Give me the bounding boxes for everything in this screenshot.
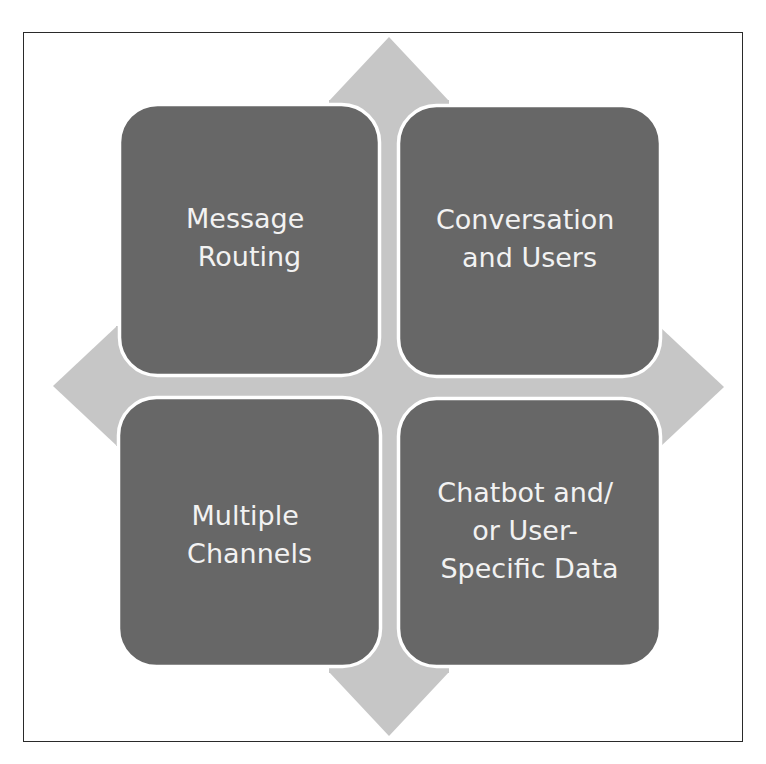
label-line: Specific Data bbox=[440, 553, 618, 584]
arrow-head-up bbox=[329, 37, 449, 101]
label-line: or User- bbox=[472, 515, 578, 546]
label-line: Message bbox=[186, 203, 304, 234]
label-line: Multiple bbox=[192, 500, 299, 531]
arrow-head-right bbox=[660, 327, 724, 447]
arrow-head-left bbox=[53, 326, 117, 446]
label-line: Routing bbox=[198, 241, 302, 272]
quadrant-bottom-right: Chatbot and/ or User- Specific Data bbox=[399, 399, 661, 667]
label-line: Channels bbox=[187, 538, 312, 569]
quadrant-top-left: Message Routing bbox=[120, 105, 380, 376]
arrow-head-down bbox=[329, 672, 449, 736]
label-line: and Users bbox=[462, 242, 597, 273]
quadrant-box bbox=[399, 106, 661, 377]
quadrant-box bbox=[120, 105, 380, 376]
quadrant-diagram: Message Routing Conversation and Users M… bbox=[0, 0, 766, 764]
label-line: Conversation bbox=[436, 204, 615, 235]
quadrant-top-right: Conversation and Users bbox=[399, 106, 661, 377]
quadrant-box bbox=[119, 398, 381, 667]
label-line: Chatbot and/ bbox=[437, 477, 614, 508]
quadrant-bottom-left: Multiple Channels bbox=[119, 398, 381, 667]
